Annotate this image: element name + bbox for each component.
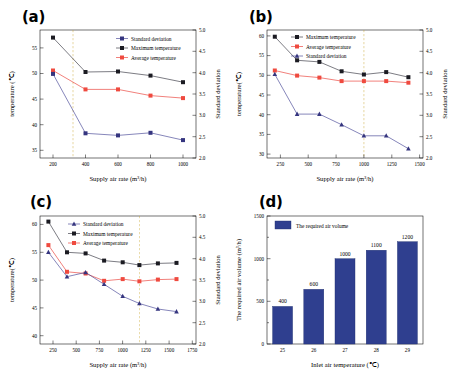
svg-text:4.0: 4.0 [426,70,433,76]
x-axis-label: Supply air rate (m³/h) [316,175,373,183]
svg-text:1000: 1000 [359,161,370,167]
legend-item-standard-deviation[interactable]: Standard deviation [68,221,124,227]
svg-text:Average temperature: Average temperature [83,240,129,246]
svg-text:1500: 1500 [164,347,175,353]
svg-text:50: 50 [32,277,38,283]
svg-text:Maximum temperature: Maximum temperature [131,45,181,51]
series-standard-deviation-line [53,74,183,140]
legend-item-average-temperature[interactable]: Average temperature [68,240,129,246]
svg-text:750: 750 [332,161,340,167]
svg-text:750: 750 [96,347,104,353]
legend: Standard deviation Maximum temperature A… [68,221,133,246]
svg-text:27: 27 [342,347,348,353]
panel-c-tag: (c) [30,193,52,211]
svg-text:1250: 1250 [141,347,152,353]
legend-item-average-temperature[interactable]: Average temperature [116,55,177,61]
y-axis-label-right: Standard deviation [214,254,221,304]
legend-item-required-air-volume[interactable]: The required air volume [275,221,349,229]
x-tick-labels: 250 500 750 1000 1250 1500 1750 [49,347,198,353]
legend-item-maximum-temperature[interactable]: Maximum temperature [68,231,133,237]
svg-text:Standard deviation: Standard deviation [83,221,124,227]
svg-text:500: 500 [72,347,80,353]
svg-text:1500: 1500 [254,213,265,219]
bar-27[interactable] [335,259,355,344]
panel-b-chart: 30 35 40 45 50 55 60 2.0 2.5 3.0 [227,0,454,190]
svg-text:2.5: 2.5 [426,134,433,140]
svg-text:The required air volume: The required air volume [296,223,349,229]
x-tick-labels: 25 26 27 28 29 [280,347,410,353]
svg-text:1000: 1000 [254,256,265,262]
legend-item-maximum-temperature[interactable]: Maximum temperature [291,34,356,40]
panel-d-chart: 0 500 1000 1500 25 26 27 28 29 Inlet air [227,190,454,381]
bar-28[interactable] [366,250,386,344]
svg-text:55: 55 [32,249,38,255]
panel-d-tag: (d) [259,193,283,211]
bar-29[interactable] [397,242,417,344]
panel-c-chart: 40 45 50 55 60 2.0 2.5 3.0 3.5 4.0 [0,190,227,381]
left-ticks [40,48,44,150]
left-tick-labels: 30 35 40 45 50 55 60 [259,33,265,157]
svg-text:600: 600 [310,281,319,287]
legend: Standard deviation Maximum temperature A… [116,36,181,61]
series-standard-deviation-markers [46,250,179,314]
svg-text:3.0: 3.0 [199,298,206,304]
x-ticks [53,155,183,159]
svg-text:4.5: 4.5 [199,234,206,240]
x-ticks [53,341,192,345]
svg-text:250: 250 [49,347,57,353]
svg-text:3.0: 3.0 [426,112,433,118]
svg-text:60: 60 [259,33,265,39]
svg-text:4.5: 4.5 [426,48,433,54]
legend: The required air volume [275,221,349,229]
svg-text:1500: 1500 [415,161,426,167]
svg-text:50: 50 [32,70,38,76]
svg-text:2.0: 2.0 [426,155,433,161]
svg-text:45: 45 [259,92,265,98]
svg-text:4.0: 4.0 [199,70,206,76]
svg-text:35: 35 [32,147,38,153]
svg-text:Maximum temperature: Maximum temperature [83,231,133,237]
svg-text:0: 0 [261,341,264,347]
svg-text:29: 29 [405,347,411,353]
svg-text:3.5: 3.5 [426,91,433,97]
svg-text:Standard deviation: Standard deviation [306,53,347,59]
svg-text:800: 800 [147,161,155,167]
svg-text:400: 400 [278,298,287,304]
panel-a: (a) 35 40 45 50 55 [0,0,227,190]
svg-text:1000: 1000 [178,161,189,167]
bar-26[interactable] [304,289,324,344]
svg-text:500: 500 [304,161,312,167]
left-tick-labels: 0 500 1000 1500 [254,213,265,347]
panel-a-chart: 35 40 45 50 55 2.0 2.5 3.0 3.5 [0,0,227,190]
svg-text:40: 40 [32,333,38,339]
svg-text:400: 400 [82,161,90,167]
svg-text:50: 50 [259,72,265,78]
svg-text:Average temperature: Average temperature [131,55,177,61]
svg-text:45: 45 [32,96,38,102]
x-tick-labels: 250 500 750 1000 1250 1500 [277,161,426,167]
legend-item-maximum-temperature[interactable]: Maximum temperature [116,45,181,51]
legend-item-standard-deviation[interactable]: Standard deviation [116,36,172,42]
svg-text:5.0: 5.0 [199,27,206,33]
svg-text:3.5: 3.5 [199,91,206,97]
svg-text:1200: 1200 [402,234,413,240]
left-ticks [267,216,271,344]
right-ticks [420,30,424,158]
svg-text:1000: 1000 [118,347,129,353]
panel-c: (c) 40 45 50 55 60 [0,190,227,381]
y-axis-label-left: temperature(℃) [235,72,243,116]
svg-text:55: 55 [32,45,38,51]
y-axis-label-right: Standard deviation [441,68,448,118]
svg-text:Standard deviation: Standard deviation [131,36,172,42]
panel-d: (d) 0 500 1000 1500 [227,190,454,381]
legend-item-average-temperature[interactable]: Average temperature [291,44,352,50]
svg-text:Average temperature: Average temperature [306,44,352,50]
y-axis-label-left: The required air volume (m³/h) [235,239,243,321]
left-ticks [267,36,271,154]
y-axis-label-left: temperature (℃) [8,71,16,117]
legend-item-standard-deviation[interactable]: Standard deviation [291,53,347,59]
bar-25[interactable] [273,306,293,344]
legend: Maximum temperature Average temperature … [291,34,356,59]
panel-b-tag: (b) [249,8,273,26]
right-tick-labels: 2.0 2.5 3.0 3.5 4.0 4.5 5.0 [426,27,433,161]
